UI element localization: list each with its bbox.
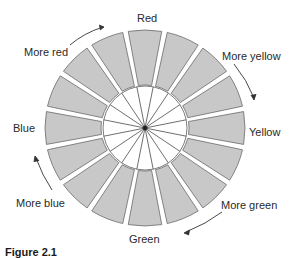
wheel-segment (128, 171, 162, 226)
label-red: Red (137, 13, 157, 24)
center-hub (143, 126, 147, 130)
arrow-more-red-head-icon (99, 25, 104, 30)
arrow-more-yellow-head-icon (251, 94, 256, 100)
label-more-green: More green (221, 200, 277, 211)
arrow-more-green-head-icon (184, 230, 190, 235)
wheel-segment (45, 112, 102, 145)
label-more-blue: More blue (16, 198, 65, 209)
label-blue: Blue (13, 123, 35, 134)
label-more-red: More red (24, 47, 68, 58)
wheel-segment (188, 112, 245, 145)
figure-caption: Figure 2.1 (5, 247, 57, 258)
arrow-more-blue-icon (36, 158, 52, 190)
label-more-yellow: More yellow (222, 51, 281, 62)
arrow-more-blue-head-icon (34, 156, 39, 162)
label-green: Green (129, 234, 160, 245)
label-yellow: Yellow (249, 127, 280, 138)
wheel-segment (128, 30, 162, 85)
